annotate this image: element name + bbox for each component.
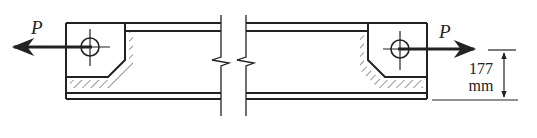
left-gusset-plate xyxy=(66,23,133,88)
left-load-label: P xyxy=(30,17,43,38)
dimension-unit: mm xyxy=(469,77,494,94)
tension-member-diagram: P P 177 mm xyxy=(0,0,537,138)
dimension-value: 177 xyxy=(469,60,493,77)
right-load-label: P xyxy=(438,21,451,42)
